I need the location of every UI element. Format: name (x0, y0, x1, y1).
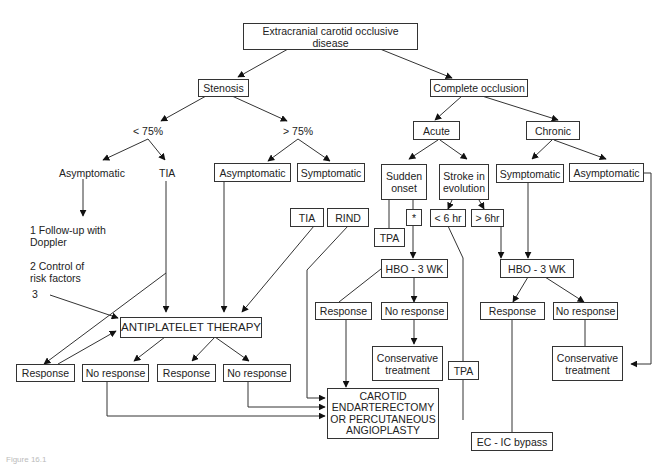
conservative-acute-node: Conservative treatment (372, 346, 443, 381)
control-risk-label: 2 Control of risk factors (30, 260, 84, 284)
figure-caption: Figure 16.1 (6, 455, 46, 464)
chronic-node: Chronic (526, 121, 580, 140)
conservative-chronic-node: Conservative treatment (552, 346, 623, 381)
tia-gt75-node: TIA (290, 208, 324, 227)
star-node: * (406, 209, 422, 226)
no-response-hbo-chronic-node: No response (553, 302, 618, 320)
asymptomatic-lt75-label: Asymptomatic (59, 167, 125, 179)
response-b-node: Response (157, 364, 216, 382)
no-response-a-node: No response (82, 364, 149, 382)
acute-node: Acute (413, 121, 460, 140)
antiplatelet-therapy-node: ANTIPLATELET THERAPY (120, 317, 262, 338)
symptomatic-gt75-node: Symptomatic (297, 163, 365, 182)
gt6hr-node: > 6hr (471, 209, 504, 227)
tia-lt75-label: TIA (159, 167, 175, 179)
sudden-onset-node: Sudden onset (381, 164, 427, 200)
stroke-evolution-node: Stroke in evolution (439, 164, 489, 200)
lt6hr-node: < 6 hr (430, 209, 466, 227)
lt75-label: < 75% (133, 125, 163, 137)
asymptomatic-chronic-node: Asymptomatic (569, 163, 644, 182)
tpa-top-node: TPA (374, 228, 405, 247)
response-a-node: Response (16, 364, 75, 382)
complete-occlusion-node: Complete occlusion (430, 79, 528, 97)
no-response-b-node: No response (223, 364, 291, 382)
step3-label: 3 (32, 288, 38, 300)
ec-ic-bypass-node: EC - IC bypass (471, 432, 553, 451)
tpa-bottom-node: TPA (448, 361, 479, 380)
stenosis-node: Stenosis (198, 79, 249, 97)
no-response-hbo-acute-node: No response (381, 302, 448, 320)
followup-label: 1 Follow-up with Doppler (30, 224, 106, 248)
response-hbo-acute-node: Response (315, 302, 372, 320)
hbo-acute-node: HBO - 3 WK (381, 259, 448, 278)
hbo-chronic-node: HBO - 3 WK (500, 259, 574, 278)
symptomatic-chronic-node: Symptomatic (496, 164, 564, 183)
carotid-endarterectomy-node: CAROTID ENDARTERECTOMY OR PERCUTANEOUS A… (327, 388, 439, 439)
rind-node: RIND (327, 208, 369, 227)
gt75-label: > 75% (283, 125, 313, 137)
response-hbo-chronic-node: Response (480, 302, 545, 320)
root-node: Extracranial carotid occlusive disease (243, 23, 418, 50)
asymptomatic-gt75-node: Asymptomatic (214, 163, 291, 182)
